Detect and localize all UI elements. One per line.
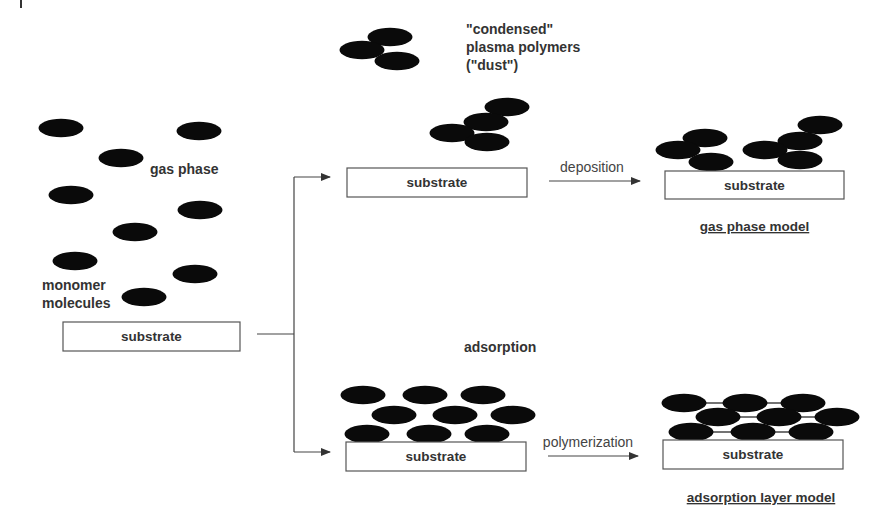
gas-phase-label: gas phase <box>150 161 219 177</box>
condensed-label-line2: plasma polymers <box>466 39 581 55</box>
adsorbed-molecule <box>465 425 510 444</box>
monomer-molecule <box>178 201 223 220</box>
monomer-molecule <box>49 186 94 205</box>
polymerized-molecule <box>815 408 860 427</box>
adsorption-layer-model-title: adsorption layer model <box>687 490 836 505</box>
adsorbed-molecule <box>341 386 386 405</box>
adsorption-label: adsorption <box>464 339 536 355</box>
polymerized-layer-molecules <box>662 394 860 442</box>
monomer-molecule <box>99 149 144 168</box>
condensed-label-line1: "condensed" <box>466 21 553 37</box>
polymerized-molecule <box>662 394 707 413</box>
above-substrate-cluster <box>430 98 530 152</box>
substrate-initial-label: substrate <box>121 329 182 344</box>
deposition-label: deposition <box>560 159 624 175</box>
substrate-gas-intermediate-label: substrate <box>407 175 468 190</box>
adsorbed-molecule <box>491 406 536 425</box>
cluster-molecule <box>465 133 510 152</box>
polymerized-molecule <box>789 423 834 442</box>
substrate-ads-final-label: substrate <box>723 447 784 462</box>
adsorbed-molecule <box>461 386 506 405</box>
monomer-label-line2: molecules <box>42 295 111 311</box>
corner-tick <box>20 0 22 8</box>
monomer-molecule <box>113 223 158 242</box>
monomer-molecule <box>122 288 167 307</box>
monomer-molecule <box>173 265 218 284</box>
substrate-gas-phase-final: substrate <box>665 171 844 199</box>
polymerized-molecule <box>757 408 802 427</box>
polymerized-molecule <box>696 408 741 427</box>
condensed-label-line3: ("dust") <box>466 57 518 73</box>
substrate-adsorption-intermediate: substrate <box>346 442 526 471</box>
polymerized-molecule <box>731 423 776 442</box>
polymerization-label: polymerization <box>543 434 633 450</box>
substrate-ads-intermediate-label: substrate <box>406 449 467 464</box>
deposited-cluster-molecule <box>798 116 843 135</box>
polymerized-molecule <box>669 423 714 442</box>
adsorbed-molecule <box>407 425 452 444</box>
gas-phase-model-title: gas phase model <box>700 219 810 234</box>
gas-phase-model-molecules <box>656 116 843 172</box>
substrate-gas-phase-intermediate: substrate <box>347 168 527 197</box>
monomer-molecule <box>39 119 84 138</box>
adsorbed-molecule <box>372 406 417 425</box>
adsorbed-layer-molecules <box>341 386 536 444</box>
adsorbed-molecule <box>403 386 448 405</box>
monomer-label-line1: monomer <box>42 277 106 293</box>
plasma-polymerization-diagram: gas phase monomer molecules substrate "c… <box>0 0 884 528</box>
adsorbed-molecule <box>433 406 478 425</box>
branch-connector <box>257 177 330 452</box>
dust-molecule <box>375 52 420 71</box>
adsorbed-molecule <box>345 425 390 444</box>
deposited-cluster-molecule <box>689 153 734 172</box>
substrate-initial: substrate <box>63 322 240 351</box>
monomer-molecule <box>177 122 222 141</box>
deposited-cluster-molecule <box>778 151 823 170</box>
substrate-adsorption-final: substrate <box>663 440 843 469</box>
monomer-molecule <box>53 252 98 271</box>
substrate-gas-final-label: substrate <box>724 178 785 193</box>
dust-cluster <box>340 28 420 71</box>
